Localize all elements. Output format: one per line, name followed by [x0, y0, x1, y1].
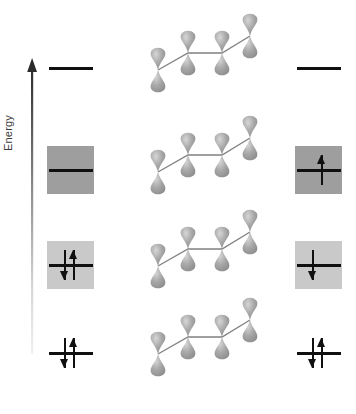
energy-level-pi-2-bonding-left — [47, 241, 94, 289]
electron-spin-up-arrow — [69, 250, 78, 280]
energy-level-pi-4-antibonding-right — [295, 44, 342, 92]
energy-axis-label: Energy — [2, 78, 14, 188]
electron-spin-up-arrow — [69, 338, 78, 368]
electron-spin-up-arrow — [317, 155, 326, 185]
spin-arrow-head — [69, 250, 77, 259]
electron-spin-up-arrow — [317, 338, 326, 368]
energy-level-pi-3-antibonding-left — [47, 146, 94, 194]
spin-arrow-head — [60, 271, 68, 280]
electron-spin-down-arrow — [60, 250, 69, 280]
spin-arrow-head — [60, 359, 68, 368]
energy-level-pi-2-bonding-right — [295, 241, 342, 289]
electron-spin-down-arrow — [308, 338, 317, 368]
spin-arrow-head — [308, 359, 316, 368]
electron-spin-down-arrow — [308, 250, 317, 280]
mo-energy-diagram: Energy — [0, 0, 356, 414]
spin-arrow-head — [317, 338, 325, 347]
energy-level-pi-1-bonding-right — [295, 329, 342, 377]
orbital-diagram-level-1 — [132, 292, 252, 396]
spin-arrow-head — [69, 338, 77, 347]
energy-axis — [26, 58, 38, 354]
orbital-diagram-level-4 — [132, 8, 252, 112]
spin-arrow-head — [308, 271, 316, 280]
energy-level-line — [297, 264, 341, 267]
energy-level-line — [297, 67, 341, 70]
electron-spin-down-arrow — [60, 338, 69, 368]
energy-level-line — [49, 67, 93, 70]
energy-level-line — [49, 169, 93, 172]
energy-level-pi-4-antibonding-left — [47, 44, 94, 92]
energy-level-pi-3-antibonding-right — [295, 146, 342, 194]
spin-arrow-head — [317, 155, 325, 164]
energy-level-pi-1-bonding-left — [47, 329, 94, 377]
orbital-diagram-level-3 — [132, 110, 252, 214]
